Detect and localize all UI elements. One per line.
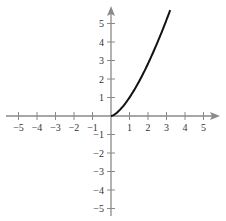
y-tick-label: 4 [99, 37, 104, 48]
axes [6, 6, 220, 216]
y-tick-label: −4 [93, 185, 104, 196]
y-tick-label: −2 [93, 148, 104, 159]
x-tick-label: −2 [69, 122, 80, 133]
x-tick-label: 4 [183, 122, 188, 133]
y-tick-label: 1 [99, 92, 104, 103]
x-tick-label: 2 [146, 122, 151, 133]
x-tick-label: −5 [13, 122, 24, 133]
y-tick-label: 5 [99, 18, 104, 29]
x-tick-label: 3 [164, 122, 169, 133]
function-curve [111, 10, 170, 116]
y-tick-label: 3 [99, 55, 104, 66]
y-tick-label: 2 [99, 74, 104, 85]
x-tick-label: 5 [201, 122, 206, 133]
x-tick-label: 1 [127, 122, 132, 133]
x-tick-label: −4 [32, 122, 43, 133]
x-tick-label: −3 [50, 122, 61, 133]
y-tick-label: −1 [93, 129, 104, 140]
coordinate-plane: −5−4−3−2−11234554321−1−2−3−4−5 [0, 0, 226, 221]
y-tick-label: −3 [93, 166, 104, 177]
y-tick-label: −5 [93, 203, 104, 214]
